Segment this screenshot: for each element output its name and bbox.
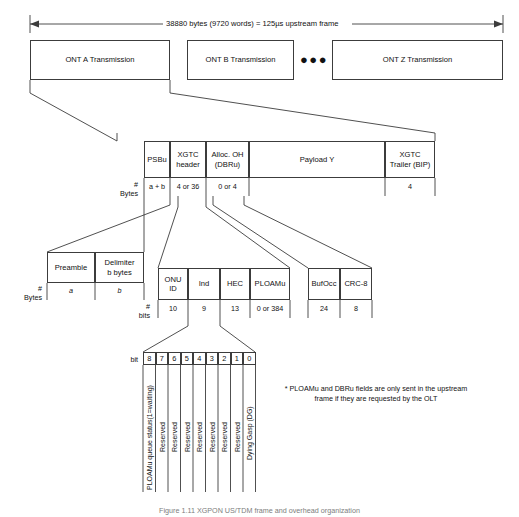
cell-xgtc-header-size: 4 or 36 [170,183,206,192]
ont-b-label: ONT B Transmission [206,55,276,64]
bit-number-0: 0 [243,352,256,365]
cell-hec[interactable]: HEC [220,268,250,300]
cell-onu-id[interactable]: ONU ID [158,268,188,300]
ellipsis-icon: ●●● [300,53,328,66]
cell-psbu-size: a + b [144,183,170,192]
bit-name-6: Reserved [171,422,178,452]
cell-payload-y-label: Payload Y [300,155,334,164]
figure-canvas: 38880 bytes (9720 words) = 125µs upstrea… [0,0,519,517]
cell-alloc-oh-label: Alloc. OH (DBRu) [211,150,243,169]
bit-number-4: 4 [193,352,206,365]
cell-hec-label: HEC [227,279,243,288]
bit-number-1: 1 [231,352,244,365]
bit-number-6: 6 [168,352,181,365]
bit-number-8: 8 [143,352,156,365]
row2-axis-label: # Bytes [92,180,138,198]
bit-name-8: PLOAMu queue status(1=waiting) [146,385,153,490]
row3-xgtc-axis-label: # bits [108,302,150,320]
cell-bufocc-label: BufOcc [312,279,337,288]
ont-z-transmission[interactable]: ONT Z Transmission [332,40,503,80]
cell-psbu[interactable]: PSBu [144,141,170,178]
cell-preamble-label: Preamble [55,263,88,272]
cell-preamble-size: a [47,287,95,296]
cell-xgtc-trailer-bip[interactable]: XGTC Trailer (BIP) [385,141,435,178]
cell-xgtc-header[interactable]: XGTC header [170,141,206,178]
cell-crc8-label: CRC-8 [344,279,367,288]
cell-bufocc-size: 24 [308,305,340,314]
cell-crc8-size: 8 [340,305,372,314]
cell-ploamu-label: PLOAMu [255,279,286,288]
cell-crc8[interactable]: CRC-8 [340,268,372,300]
bit-name-0: Dying Gasp (DG) [246,406,253,460]
cell-preamble[interactable]: Preamble [47,252,95,283]
cell-ind[interactable]: Ind [188,268,220,300]
bit-name-7: Reserved [159,422,166,452]
cell-psbu-label: PSBu [147,155,166,164]
ont-a-label: ONT A Transmission [65,55,134,64]
cell-bufocc[interactable]: BufOcc [308,268,340,300]
ont-a-transmission[interactable]: ONT A Transmission [30,40,170,80]
footnote: * PLOAMu and DBRu fields are only sent i… [278,384,474,405]
cell-delimiter-label: Delimiter b bytes [105,258,135,277]
bit-name-3: Reserved [209,422,216,452]
cell-delimiter[interactable]: Delimiter b bytes [95,252,144,283]
cell-ind-size: 9 [188,305,220,314]
cell-payload-y[interactable]: Payload Y [249,141,385,178]
bit-number-3: 3 [206,352,219,365]
bit-number-5: 5 [181,352,194,365]
bit-number-7: 7 [156,352,169,365]
cell-ploamu-size: 0 or 384 [248,305,292,314]
ont-b-transmission[interactable]: ONT B Transmission [187,40,294,80]
cell-hec-size: 13 [220,305,250,314]
figure-caption: Figure 1.11 XGPON US/TDM frame and overh… [0,506,519,515]
top-dimension-label: 38880 bytes (9720 words) = 125µs upstrea… [163,19,342,28]
ont-z-label: ONT Z Transmission [383,55,452,64]
cell-alloc-oh-size: 0 or 4 [206,183,249,192]
cell-onu-id-label: ONU ID [165,275,182,294]
cell-alloc-oh-dbru[interactable]: Alloc. OH (DBRu) [206,141,249,178]
cell-delimiter-size: b [95,287,144,296]
cell-ploamu[interactable]: PLOAMu [250,268,290,300]
cell-xgtc-trailer-label: XGTC Trailer (BIP) [390,150,431,169]
bit-name-2: Reserved [221,422,228,452]
row3-psbu-axis-label: # Bytes [0,284,42,302]
cell-xgtc-trailer-size: 4 [385,183,435,192]
bit-name-1: Reserved [234,422,241,452]
cell-onu-id-size: 10 [158,305,188,314]
cell-ind-label: Ind [199,279,210,288]
bit-name-5: Reserved [184,422,191,452]
cell-xgtc-header-label: XGTC header [176,150,200,169]
bit-name-4: Reserved [196,422,203,452]
bit-number-2: 2 [218,352,231,365]
bitfield-axis-label: bit [108,355,138,364]
